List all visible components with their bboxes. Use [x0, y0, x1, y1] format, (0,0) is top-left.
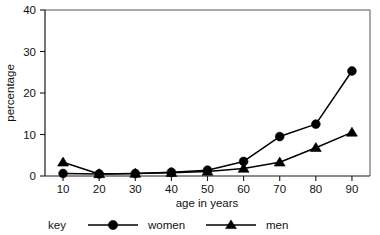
y-tick-label: 30 [23, 46, 36, 58]
x-tick-label: 20 [93, 183, 106, 195]
x-tick-label: 10 [57, 183, 70, 195]
x-tick-label: 40 [165, 183, 178, 195]
y-axis-title: percentage [4, 64, 16, 122]
y-tick-label: 40 [23, 4, 36, 16]
legend-label-men: men [266, 219, 288, 231]
y-tick-label: 10 [23, 129, 36, 141]
x-tick-label: 60 [237, 183, 250, 195]
x-tick-label: 80 [309, 183, 322, 195]
data-point-circle-marker [348, 67, 357, 76]
chart-container: 010203040 102030405060708090 percentage … [0, 0, 380, 235]
percentage-by-age-line-chart: 010203040 102030405060708090 percentage … [0, 0, 380, 235]
data-point-circle-marker [311, 120, 320, 129]
y-tick-label: 20 [23, 87, 36, 99]
x-tick-label: 50 [201, 183, 214, 195]
data-point-circle-marker [59, 169, 68, 178]
data-point-circle-marker [275, 132, 284, 141]
x-tick-label: 30 [129, 183, 142, 195]
y-tick-label: 0 [30, 170, 36, 182]
x-axis-title: age in years [176, 197, 239, 209]
circle-marker-icon [108, 220, 117, 229]
legend-label-women: women [147, 219, 185, 231]
legend-key-label: key [48, 219, 66, 231]
x-tick-label: 90 [346, 183, 359, 195]
x-tick-label: 70 [273, 183, 286, 195]
